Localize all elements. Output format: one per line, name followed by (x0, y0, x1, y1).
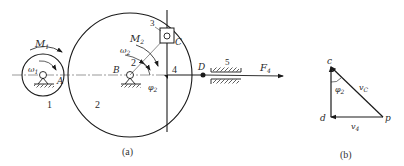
label-slider-3: 3 (150, 18, 155, 28)
caption-b: (b) (340, 149, 352, 161)
omega-arrow-1 (39, 61, 56, 70)
label-guide-5: 5 (225, 57, 230, 67)
label-M1: M1 (34, 38, 49, 50)
label-F4: F4 (259, 62, 271, 74)
moment-arrow-M2 (136, 45, 158, 66)
label-v4: v4 (351, 122, 360, 132)
label-phi2-b: φ2 (335, 85, 345, 95)
figure-a: M1 ω1 A 1 2 B M2 ω2 2 φ2 4 3 C (12, 10, 283, 158)
label-rod-4: 4 (172, 64, 177, 75)
label-A: A (56, 76, 64, 86)
label-vc: vC (359, 83, 369, 93)
mechanism-diagram: M1 ω1 A 1 2 B M2 ω2 2 φ2 4 3 C (0, 0, 404, 166)
omega-arrow-2 (125, 55, 150, 70)
label-B: B (112, 65, 120, 75)
label-omega1: ω1 (28, 65, 38, 75)
angle-arc-b (331, 78, 341, 82)
force-arrow-F4 (203, 75, 283, 76)
label-D: D (197, 62, 205, 72)
label-M2: M2 (129, 33, 144, 45)
vertex-c: c (327, 56, 332, 66)
label-phi2: φ2 (148, 83, 158, 93)
vertex-p: p (385, 113, 391, 123)
slider-pin-icon (164, 33, 170, 39)
label-omega2: ω2 (120, 46, 131, 56)
figure-b-velocity-polygon: c d p φ2 vC v4 (b) (320, 56, 391, 161)
caption-a: (a) (122, 146, 133, 158)
label-gear-2: 2 (95, 99, 100, 110)
label-C: C (175, 37, 182, 47)
label-arrow-2: 2 (131, 57, 136, 68)
label-gear-1: 1 (47, 99, 52, 110)
vertex-d: d (320, 113, 326, 123)
